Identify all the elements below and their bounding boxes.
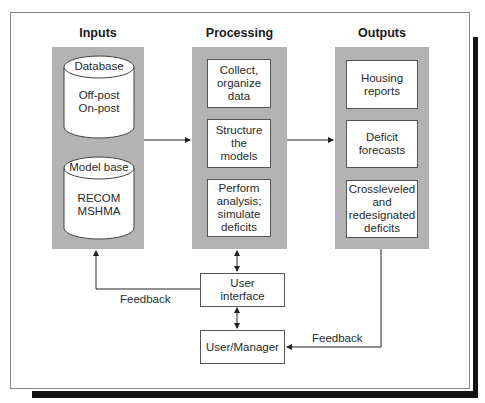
feedback-label-left: Feedback <box>120 293 171 305</box>
connector-arrows <box>0 0 485 403</box>
feedback-label-right: Feedback <box>312 332 363 344</box>
